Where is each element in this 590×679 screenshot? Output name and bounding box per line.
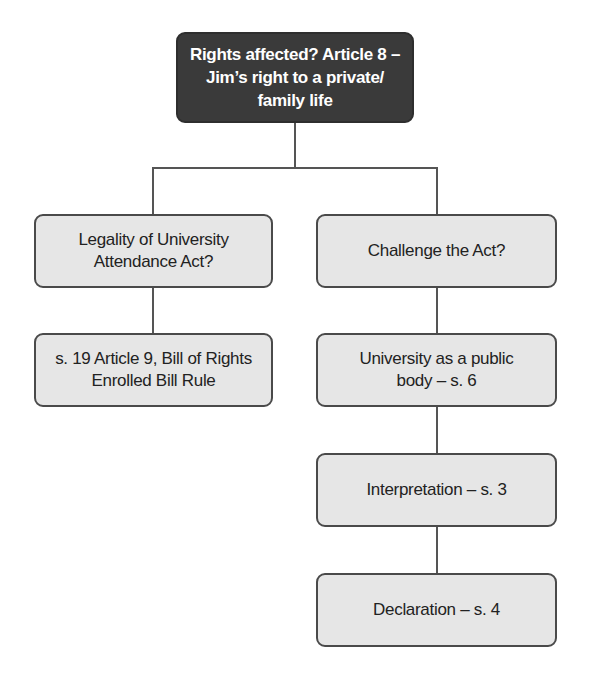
right-node-declaration: Declaration – s. 4 bbox=[316, 573, 557, 647]
root-node-label: Rights affected? Article 8 – Jim’s right… bbox=[190, 43, 400, 112]
connector-right-down bbox=[436, 167, 438, 215]
left-node-legality: Legality of University Attendance Act? bbox=[34, 214, 273, 288]
right-node-interpretation-label: Interpretation – s. 3 bbox=[366, 479, 506, 501]
connector-left-1-2 bbox=[152, 288, 154, 334]
left-node-article9: s. 19 Article 9, Bill of Rights Enrolled… bbox=[34, 333, 273, 407]
right-node-challenge-label: Challenge the Act? bbox=[368, 240, 505, 262]
connector-right-1-2 bbox=[436, 288, 438, 334]
right-node-public-body-label: University as a public body – s. 6 bbox=[359, 348, 513, 392]
left-node-article9-label: s. 19 Article 9, Bill of Rights Enrolled… bbox=[55, 348, 252, 392]
left-node-legality-label: Legality of University Attendance Act? bbox=[78, 229, 228, 273]
right-node-interpretation: Interpretation – s. 3 bbox=[316, 453, 557, 527]
right-node-public-body: University as a public body – s. 6 bbox=[316, 333, 557, 407]
connector-right-3-4 bbox=[436, 527, 438, 574]
connector-right-2-3 bbox=[436, 407, 438, 454]
connector-root-down bbox=[294, 123, 296, 169]
right-node-declaration-label: Declaration – s. 4 bbox=[373, 599, 500, 621]
right-node-challenge: Challenge the Act? bbox=[316, 214, 557, 288]
root-node: Rights affected? Article 8 – Jim’s right… bbox=[176, 32, 414, 123]
connector-horizontal bbox=[152, 167, 438, 169]
connector-left-down bbox=[152, 167, 154, 215]
